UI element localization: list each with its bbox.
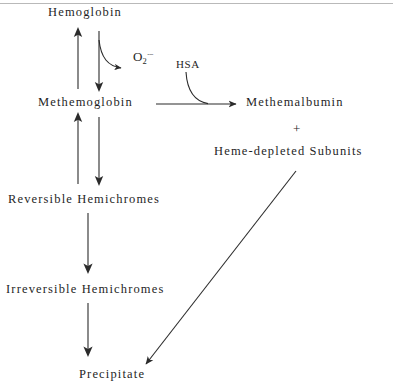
edge-reversible-to-irreversible [83,213,92,274]
node-precipitate: Precipitate [79,368,145,382]
node-heme-depleted-subunits: Heme-depleted Subunits [214,145,363,159]
edge-irreversible-to-precipitate [83,303,92,357]
edge-methemoglobin-to-hemoglobin [74,27,82,89]
node-irreversible-hemichromes: Irreversible Hemichromes [6,283,164,297]
node-plus-operator: + [293,122,300,136]
page-edge-rule [0,3,393,4]
superoxide-superscript: ·− [147,49,154,59]
pathway-diagram: Hemoglobin O2·− HSA Methemoglobin Methem… [0,0,393,386]
node-hemoglobin: Hemoglobin [48,6,122,20]
edge-hemoglobin-to-superoxide [99,40,121,68]
node-hsa-cofactor: HSA [176,58,200,70]
node-superoxide-radical: O2·− [133,50,153,66]
node-methemoglobin: Methemoglobin [38,96,133,110]
edge-hemoglobin-to-methemoglobin [95,31,103,92]
edge-methemoglobin-to-reversible [95,117,103,186]
edge-heme-depleted-to-precipitate [146,171,296,364]
edge-reversible-to-methemoglobin [74,112,82,184]
edge-methemoglobin-to-methemalbumin [156,72,236,104]
node-methemalbumin: Methemalbumin [246,96,344,110]
node-reversible-hemichromes: Reversible Hemichromes [8,193,160,207]
